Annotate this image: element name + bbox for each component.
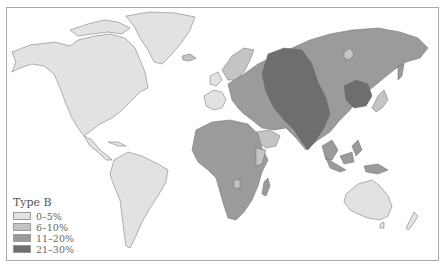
legend-label: 11–20% [36,233,74,244]
legend-title: Type B [13,196,74,209]
legend-swatch-0-5 [13,212,31,220]
region-australia [344,180,392,220]
region-africa [192,120,268,220]
legend-label: 0–5% [36,211,62,222]
legend-swatch-11-20 [13,234,31,242]
legend-label: 21–30% [36,244,74,255]
legend-item: 0–5% [13,211,74,221]
region-south-america [110,152,168,248]
region-western-europe [204,90,226,110]
legend-item: 21–30% [13,244,74,254]
legend-label: 6–10% [36,222,68,233]
map-legend: Type B 0–5% 6–10% 11–20% 21–30% [13,196,74,255]
legend-item: 6–10% [13,222,74,232]
legend-item: 11–20% [13,233,74,243]
region-north-america [12,34,148,136]
legend-swatch-21-30 [13,245,31,253]
legend-swatch-6-10 [13,223,31,231]
